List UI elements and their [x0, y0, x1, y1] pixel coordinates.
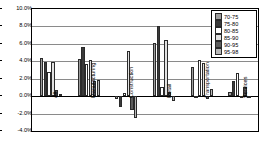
y-axis-tick-label: 8.0%	[2, 22, 32, 28]
bar	[47, 72, 50, 96]
bar	[160, 87, 163, 97]
legend-item[interactable]: 80-85	[215, 27, 254, 34]
bar	[40, 58, 43, 96]
legend-item[interactable]: 95-98	[215, 48, 254, 55]
bar-set	[107, 9, 145, 131]
bar-set	[70, 9, 108, 131]
bar-set	[32, 9, 70, 131]
bar	[191, 67, 194, 97]
bar-group	[70, 9, 108, 131]
bar	[59, 94, 62, 97]
bar-group	[107, 9, 145, 131]
bar	[236, 73, 239, 96]
category-label: Manufacturing	[90, 63, 96, 98]
y-axis-tick-mark	[0, 113, 2, 114]
bar	[44, 62, 47, 96]
y-axis-tick-mark	[0, 43, 2, 44]
y-axis-tick-label: -4.0%	[2, 127, 32, 133]
category-label: All	[52, 92, 58, 98]
bar-group	[32, 9, 70, 131]
legend-label: 80-85	[224, 28, 238, 34]
legend-swatch-icon	[215, 34, 222, 41]
bar	[153, 43, 156, 96]
y-axis-tick-label: 2.0%	[2, 75, 32, 81]
bar	[210, 89, 213, 96]
bar-group	[145, 9, 183, 131]
legend-swatch-icon	[215, 13, 222, 20]
bar	[85, 64, 88, 96]
legend-label: 70-75	[224, 14, 238, 20]
bar	[81, 47, 84, 96]
legend-item[interactable]: 75-80	[215, 20, 254, 27]
y-axis-tick-mark	[0, 8, 2, 9]
y-axis-tick-mark	[0, 78, 2, 79]
y-axis-tick-label: 10.0%	[2, 5, 32, 11]
bar	[157, 26, 160, 97]
legend-swatch-icon	[215, 41, 222, 48]
y-axis-tick-mark	[0, 25, 2, 26]
legend-item[interactable]: 90-95	[215, 41, 254, 48]
bar-chart: 10.0%8.0%6.0%4.0%2.0%0.0%-2.0%-4.0% AllM…	[0, 0, 265, 157]
bar	[123, 93, 126, 96]
legend-swatch-icon	[215, 48, 222, 55]
legend-label: 95-98	[224, 49, 238, 55]
legend-label: 85-90	[224, 35, 238, 41]
y-axis-tick-label: 6.0%	[2, 40, 32, 46]
bar	[198, 60, 201, 96]
bar	[97, 80, 100, 97]
y-axis-tick-mark	[0, 130, 2, 131]
bar-set	[145, 9, 183, 131]
bar	[119, 96, 122, 107]
category-label: Retail	[166, 84, 172, 98]
y-axis-tick-mark	[0, 95, 2, 96]
bar	[172, 96, 175, 101]
legend[interactable]: 70-7575-8080-8585-9090-9595-98	[211, 10, 257, 58]
bar	[130, 96, 133, 110]
legend-item[interactable]: 85-90	[215, 34, 254, 41]
bar	[134, 96, 137, 118]
legend-label: 90-95	[224, 42, 238, 48]
y-axis-tick-mark	[0, 60, 2, 61]
legend-swatch-icon	[215, 27, 222, 34]
legend-swatch-icon	[215, 20, 222, 27]
category-label: Transportation	[204, 62, 210, 98]
category-label: Services	[242, 77, 248, 98]
y-axis-tick-label: 0.0%	[2, 92, 32, 98]
y-axis-tick-label: -2.0%	[2, 110, 32, 116]
bar	[232, 81, 235, 96]
category-label: Construction	[128, 67, 134, 98]
legend-item[interactable]: 70-75	[215, 13, 254, 20]
y-axis-tick-label: 4.0%	[2, 57, 32, 63]
bar	[228, 92, 231, 96]
legend-label: 75-80	[224, 21, 238, 27]
bar	[78, 59, 81, 96]
bar	[115, 96, 118, 99]
bar	[194, 96, 197, 98]
